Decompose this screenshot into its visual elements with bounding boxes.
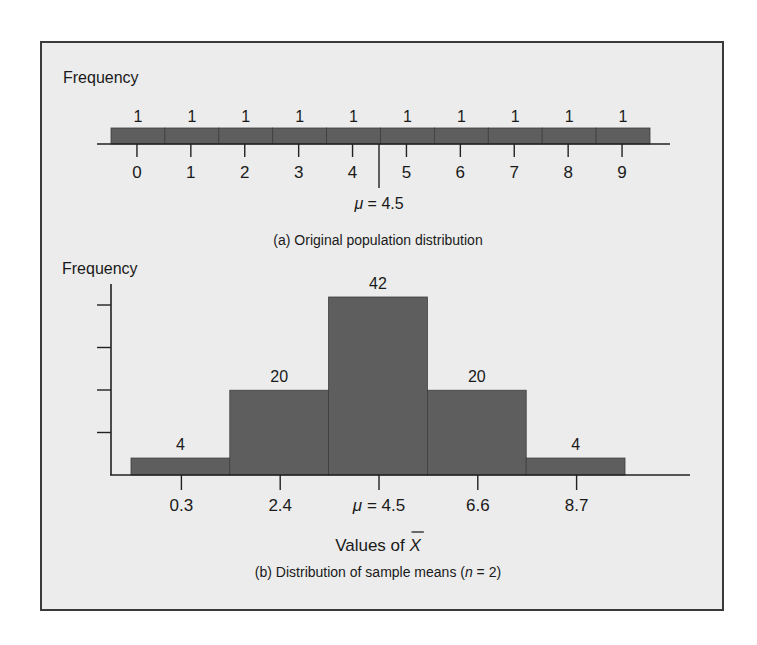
panel-b-y-ticks — [97, 305, 111, 433]
panel-a-x-tick-label: 7 — [510, 163, 519, 182]
panel-a-y-axis-label: Frequency — [63, 69, 139, 86]
panel-a-x-tick-label: 6 — [456, 163, 465, 182]
panel-a-bar-value-label: 1 — [241, 108, 250, 125]
panel-a-bar-value-label: 1 — [349, 108, 358, 125]
panel-a-bar — [273, 128, 327, 144]
panel-a-x-tick-label: 2 — [240, 163, 249, 182]
panel-b-x-tick-label: 6.6 — [466, 496, 490, 515]
panel-a-bar — [219, 128, 273, 144]
panel-a-bar — [381, 128, 435, 144]
panel-a-bar — [111, 128, 165, 144]
panel-a-bar-value-label: 1 — [295, 108, 304, 125]
panel-b-sample-means-distribution: Frequency 42042204 0.32.4μ = 4.56.68.7 V… — [62, 260, 690, 580]
panel-b-x-ticks: 0.32.4μ = 4.56.68.7 — [170, 475, 589, 515]
panel-b-x-tick-label: 0.3 — [170, 496, 194, 515]
panel-a-x-tick-label: 4 — [348, 163, 357, 182]
panel-b-bar-value-label: 20 — [468, 368, 486, 385]
panel-a-bar-value-label: 1 — [403, 108, 412, 125]
panel-a-x-tick-label: 9 — [617, 163, 626, 182]
panel-a-bar-value-label: 1 — [187, 108, 196, 125]
histogram-figure: Frequency 1111111111 0123456789 μ = 4.5 … — [0, 0, 757, 645]
panel-b-x-tick-label: μ = 4.5 — [352, 496, 405, 515]
panel-b-bar-value-label: 20 — [270, 368, 288, 385]
panel-b-bar-value-label: 4 — [176, 436, 185, 453]
panel-a-bar-value-label: 1 — [511, 108, 520, 125]
panel-b-bar — [230, 390, 329, 475]
panel-a-bar-value-label: 1 — [133, 108, 142, 125]
panel-a-x-tick-label: 3 — [294, 163, 303, 182]
panel-b-x-tick-label: 2.4 — [268, 496, 292, 515]
panel-b-bar — [526, 458, 625, 475]
panel-a-x-tick-label: 0 — [132, 163, 141, 182]
panel-a-bar-value-label: 1 — [619, 108, 628, 125]
panel-a-bar — [542, 128, 596, 144]
panel-a-mean-label: μ = 4.5 — [353, 195, 403, 212]
panel-a-caption: (a) Original population distribution — [273, 232, 482, 248]
panel-a-bar — [165, 128, 219, 144]
panel-b-bar-value-label: 4 — [571, 436, 580, 453]
panel-a-x-tick-label: 8 — [563, 163, 572, 182]
x-bar-symbol: X — [409, 536, 422, 555]
panel-b-x-tick-label: 8.7 — [565, 496, 589, 515]
panel-b-bar — [329, 297, 428, 475]
panel-a-bar — [488, 128, 542, 144]
panel-a-x-tick-label: 1 — [186, 163, 195, 182]
panel-a-bar — [596, 128, 650, 144]
panel-b-bar-value-label: 42 — [369, 275, 387, 292]
panel-b-x-axis-label: Values of X — [335, 536, 421, 555]
panel-b-bar — [131, 458, 230, 475]
panel-a-bars: 1111111111 — [111, 108, 650, 144]
panel-a-x-tick-label: 5 — [402, 163, 411, 182]
panel-a-bar — [327, 128, 381, 144]
panel-a-bar — [434, 128, 488, 144]
panel-a-population-distribution: Frequency 1111111111 0123456789 μ = 4.5 … — [63, 69, 670, 248]
panel-b-y-axis-label: Frequency — [62, 260, 138, 277]
panel-b-bar — [427, 390, 526, 475]
panel-a-bar-value-label: 1 — [457, 108, 466, 125]
panel-a-bar-value-label: 1 — [565, 108, 574, 125]
panel-b-bars: 42042204 — [131, 275, 625, 475]
panel-b-caption: (b) Distribution of sample means (n = 2) — [255, 564, 501, 580]
